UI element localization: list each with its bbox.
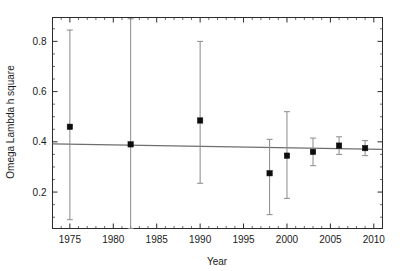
y-axis-title: Omega Lambda h square	[5, 65, 16, 179]
data-point-marker	[284, 153, 289, 158]
data-point-marker	[362, 145, 367, 150]
x-tick-label: 1985	[146, 234, 169, 245]
y-tick-label: 0.2	[33, 187, 47, 198]
y-tick-label: 0.6	[33, 86, 47, 97]
chart-figure: 19751980198519901995200020052010 0.20.40…	[0, 0, 414, 271]
data-point-marker	[67, 124, 72, 129]
x-tick-label: 1990	[189, 234, 212, 245]
y-tick-label: 0.8	[33, 36, 47, 47]
x-tick-label: 2010	[363, 234, 386, 245]
y-tick-label: 0.4	[33, 136, 47, 147]
x-tick-label: 1980	[102, 234, 125, 245]
data-point-marker	[267, 171, 272, 176]
x-tick-label: 1975	[59, 234, 82, 245]
data-point-marker	[310, 149, 315, 154]
figure-background	[0, 0, 414, 271]
data-point-marker	[197, 118, 202, 123]
data-point-marker	[336, 143, 341, 148]
x-tick-label: 1995	[232, 234, 255, 245]
scatter-plot-with-error-bars: 19751980198519901995200020052010 0.20.40…	[0, 0, 414, 271]
data-point-marker	[128, 142, 133, 147]
x-tick-label: 2000	[276, 234, 299, 245]
x-axis-title: Year	[207, 256, 228, 267]
x-tick-label: 2005	[319, 234, 342, 245]
